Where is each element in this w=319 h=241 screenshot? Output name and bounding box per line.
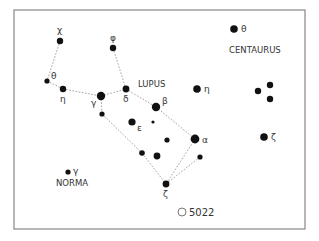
star-label-cen-eta: η <box>204 84 210 94</box>
star-lup-alpha <box>191 135 200 144</box>
star-label-lup-gamma: γ <box>91 98 97 108</box>
star-cen-zeta <box>260 133 268 141</box>
deep-sky-label: 5022 <box>189 207 214 218</box>
star-lup-e <box>154 153 161 160</box>
star-lup-zeta <box>163 181 170 188</box>
constellation-label-centaurus: CENTAURUS <box>229 45 281 55</box>
star-chart: χθηγφδβεαζθηζγ 5022 LUPUSCENTAURUSNORMA <box>0 0 319 241</box>
star-label-cen-zeta: ζ <box>271 132 276 142</box>
star-label-lup-delta: δ <box>123 94 129 104</box>
star-lup-theta <box>44 78 49 83</box>
star-lup-beta <box>152 103 160 111</box>
star-lup-b <box>151 120 154 123</box>
constellation-label-lupus: LUPUS <box>138 79 165 89</box>
star-lup-epsilon <box>128 118 135 125</box>
star-lup-c <box>164 137 169 142</box>
star-lup-delta <box>123 86 130 93</box>
star-cen-b <box>267 82 273 88</box>
star-label-lup-zeta: ζ <box>163 189 168 199</box>
star-label-lup-theta: θ <box>51 71 57 81</box>
star-lup-d <box>139 150 145 156</box>
star-label-nor-gamma: γ <box>73 166 79 176</box>
star-cen-eta <box>193 85 201 93</box>
star-lup-chi <box>57 38 63 44</box>
star-lup-a <box>99 111 104 116</box>
star-lup-gamma <box>97 92 105 100</box>
star-cen-theta <box>230 25 238 33</box>
star-label-lup-beta: β <box>162 96 168 106</box>
star-label-cen-theta: θ <box>241 24 247 34</box>
star-lup-f <box>197 154 202 159</box>
constellation-label-norma: NORMA <box>56 178 88 188</box>
star-nor-gamma <box>65 169 70 174</box>
star-label-lup-epsilon: ε <box>137 123 142 133</box>
star-cen-c <box>267 96 273 102</box>
star-cen-a <box>255 88 261 94</box>
star-lup-phi <box>110 45 116 51</box>
star-label-lup-alpha: α <box>202 135 208 145</box>
star-lup-eta <box>60 86 66 92</box>
star-label-lup-eta: η <box>60 94 66 104</box>
star-label-lup-phi: φ <box>110 33 116 43</box>
star-label-lup-chi: χ <box>57 25 62 35</box>
